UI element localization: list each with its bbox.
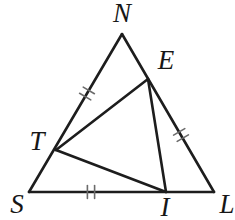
- segment-NS: [29, 34, 122, 192]
- vertex-label-i: I: [161, 194, 170, 220]
- vertex-label-n: N: [113, 0, 131, 27]
- triangle-diagram-canvas: [0, 0, 235, 219]
- segment-TE: [56, 79, 148, 150]
- vertex-label-e: E: [158, 47, 175, 74]
- vertex-label-l: L: [219, 191, 234, 218]
- segment-TI: [56, 150, 166, 192]
- vertex-label-s: S: [10, 191, 24, 218]
- vertex-label-t: T: [29, 128, 44, 155]
- geometry-figure: N E L I S T: [0, 0, 235, 219]
